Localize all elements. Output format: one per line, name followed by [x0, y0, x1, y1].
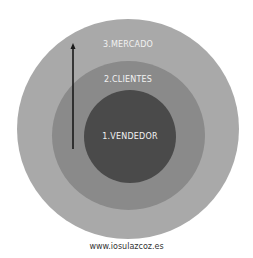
arrow-up-icon: [0, 0, 253, 258]
footer-url: www.iosulazcoz.es: [0, 243, 253, 251]
